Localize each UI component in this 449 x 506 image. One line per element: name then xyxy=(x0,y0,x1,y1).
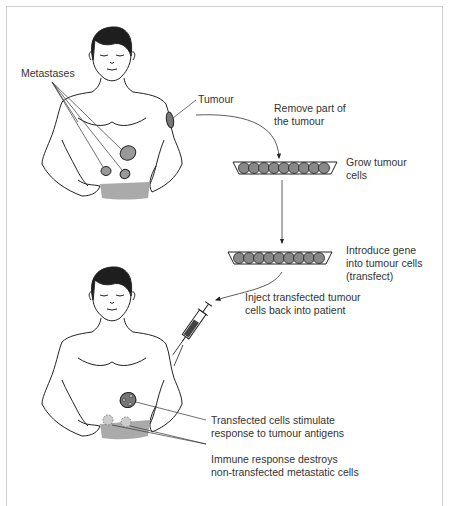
metastases-label: Metastases xyxy=(21,67,75,80)
remove-label: Remove part of the tumour xyxy=(274,102,346,128)
tumour-label: Tumour xyxy=(198,93,234,106)
grow-label: Grow tumour cells xyxy=(346,156,407,182)
stimulate-label-line-2: response to tumour antigens xyxy=(211,427,344,440)
introduce-label-line-3: (transfect) xyxy=(346,270,422,283)
syringe-icon xyxy=(168,301,213,359)
tumour-pointer-line xyxy=(173,100,196,118)
remove-arrow xyxy=(196,115,279,158)
introduce-label-line-1: Introduce gene xyxy=(346,244,422,257)
stimulate-label: Transfected cells stimulate response to … xyxy=(211,414,344,440)
introduce-label-line-2: into tumour cells xyxy=(346,257,422,270)
grow-label-line-2: cells xyxy=(346,169,407,182)
introduce-label: Introduce gene into tumour cells (transf… xyxy=(346,244,422,283)
immune-label-line-1: Immune response destroys xyxy=(211,453,359,466)
inject-label-line-2: cells back into patient xyxy=(245,304,361,317)
grow-label-line-1: Grow tumour xyxy=(346,156,407,169)
inject-label-line-1: Inject transfected tumour xyxy=(245,291,361,304)
needle-line xyxy=(174,345,183,366)
stimulate-label-line-1: Transfected cells stimulate xyxy=(211,414,344,427)
culture-dish-2 xyxy=(228,252,332,264)
culture-dish-1 xyxy=(233,162,337,174)
patient-after-figure xyxy=(42,267,182,439)
immune-label: Immune response destroys non-transfected… xyxy=(211,453,359,479)
patient-before-figure xyxy=(42,27,182,200)
remove-label-line-2: the tumour xyxy=(274,115,346,128)
immune-label-line-2: non-transfected metastatic cells xyxy=(211,466,359,479)
metastases-pointer-lines xyxy=(52,82,122,170)
inject-label: Inject transfected tumour cells back int… xyxy=(245,291,361,317)
remove-label-line-1: Remove part of xyxy=(274,102,346,115)
